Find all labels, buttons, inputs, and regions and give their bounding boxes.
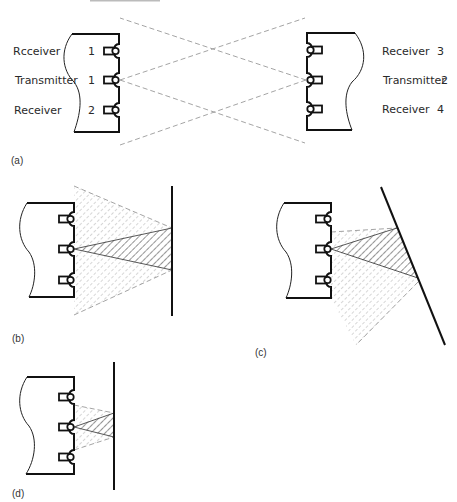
- right-number-2: 4: [437, 103, 444, 116]
- panel-a-beams: [120, 18, 306, 145]
- panel-d: (d): [12, 362, 114, 499]
- panel-b-caption: (b): [12, 333, 24, 344]
- panel-b-sensor-block: [20, 203, 74, 297]
- receiver-3-icon: [307, 47, 322, 54]
- receiver-4-icon: [307, 106, 322, 113]
- right-label-0: Receiver: [382, 45, 430, 58]
- transmitter-2-icon: [307, 77, 322, 84]
- receiver-2-icon: [104, 107, 119, 114]
- panel-d-caption: (d): [12, 488, 24, 499]
- left-number-0: 1: [88, 45, 95, 58]
- panel-a-caption: (a): [11, 155, 23, 166]
- left-label-1: Transmitter: [14, 74, 78, 87]
- panel-c: (c): [255, 187, 445, 358]
- panel-a: Rcceiver 1 Transmitter 1 Receiver 2 Rece…: [11, 18, 448, 166]
- panel-c-caption: (c): [255, 347, 267, 358]
- left-label-2: Receiver: [14, 104, 62, 117]
- cropped-header-text: [90, 0, 160, 2]
- panel-b: (b): [12, 186, 172, 344]
- left-label-0: Rcceiver: [13, 45, 61, 58]
- left-number-1: 1: [88, 74, 95, 87]
- transmitter-1-icon: [104, 77, 119, 84]
- right-number-0: 3: [437, 45, 444, 58]
- panel-c-sensor-block: [277, 203, 331, 298]
- right-sensor-block: [307, 33, 364, 130]
- sensor-reflection-diagram: Rcceiver 1 Transmitter 1 Receiver 2 Rece…: [0, 0, 457, 502]
- right-label-1: Transmitter: [382, 74, 446, 87]
- left-number-2: 2: [88, 104, 95, 117]
- right-label-2: Receiver: [382, 103, 430, 116]
- panel-d-sensor-block: [20, 377, 74, 474]
- receiver-1-icon: [104, 48, 119, 55]
- right-number-1: 2: [441, 74, 448, 87]
